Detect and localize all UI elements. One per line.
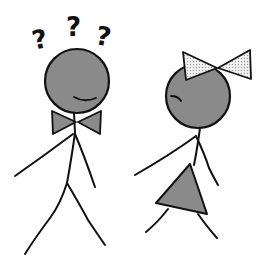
- girl-dress: [156, 164, 207, 214]
- question-mark-left: ?: [29, 23, 50, 55]
- boy-body: [15, 113, 105, 254]
- question-mark-center: ?: [66, 12, 81, 42]
- bowtie-icon: [52, 111, 101, 134]
- illustration: ? ? ?: [0, 0, 264, 266]
- boy-head: [45, 49, 109, 113]
- boy-figure: ? ? ?: [15, 12, 113, 254]
- question-mark-right: ?: [93, 20, 113, 52]
- girl-figure: [135, 50, 251, 238]
